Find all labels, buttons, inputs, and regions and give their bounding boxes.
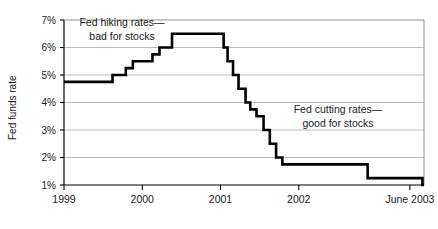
y-tick-label: 1% xyxy=(42,180,57,191)
y-tick-label: 2% xyxy=(42,152,57,163)
y-tick-label: 5% xyxy=(42,70,57,81)
y-axis-title: Fed funds rate xyxy=(7,75,18,140)
x-tick-label: 1999 xyxy=(52,193,76,205)
y-tick-label: 7% xyxy=(42,15,57,26)
chart-svg: 1%2%3%4%5%6%7% 1999200020012002June 2003… xyxy=(0,0,438,229)
x-tick-label: 2002 xyxy=(287,193,311,205)
y-tick-label: 4% xyxy=(42,97,57,108)
x-tick-label: 2001 xyxy=(209,193,233,205)
y-tick-label: 6% xyxy=(42,42,57,53)
x-tick-label: June 2003 xyxy=(385,193,434,205)
fed-funds-rate-chart: 1%2%3%4%5%6%7% 1999200020012002June 2003… xyxy=(0,0,438,229)
x-tick-label: 2000 xyxy=(131,193,155,205)
y-tick-label: 3% xyxy=(42,125,57,136)
